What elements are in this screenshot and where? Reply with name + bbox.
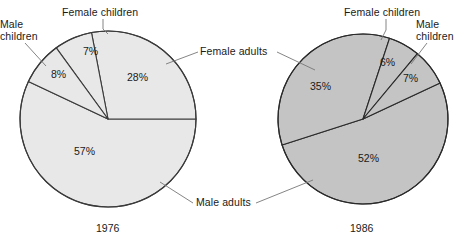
label-1986-male-children-line2: children xyxy=(416,30,454,42)
pct-1986-male-children: 7% xyxy=(403,72,418,84)
leader-male-adults-1986 xyxy=(256,180,313,203)
label-1976-male-children-line1: Male xyxy=(0,18,23,30)
pct-1976-female-children: 7% xyxy=(83,45,98,57)
pct-1976-female-adults: 28% xyxy=(127,71,148,83)
label-female-adults: Female adults xyxy=(200,45,267,57)
leader-1976-male-children xyxy=(25,43,46,66)
year-label-1976: 1976 xyxy=(96,222,119,234)
pct-1976-male-children: 8% xyxy=(51,68,66,80)
pct-1986-female-children: 6% xyxy=(380,56,395,68)
pct-1976-male-adults: 57% xyxy=(74,145,95,157)
pct-1986-female-adults: 35% xyxy=(310,80,331,92)
label-1986-male-children: Male children xyxy=(416,18,471,42)
pie-1986-group xyxy=(278,34,448,204)
pie-1976-group xyxy=(20,31,196,207)
label-1986-male-children-line1: Male xyxy=(416,18,439,30)
year-label-1986: 1986 xyxy=(350,222,373,234)
pct-1986-male-adults: 52% xyxy=(358,152,379,164)
label-1976-male-children: Male children xyxy=(0,18,56,42)
label-male-adults: Male adults xyxy=(196,196,251,208)
leader-male-adults-1976 xyxy=(160,182,193,203)
two-pie-chart-figure: Female children Male children Female adu… xyxy=(0,0,471,239)
label-1976-male-children-line2: children xyxy=(0,30,38,42)
label-1976-female-children: Female children xyxy=(62,6,138,18)
label-1986-female-children: Female children xyxy=(344,6,420,18)
